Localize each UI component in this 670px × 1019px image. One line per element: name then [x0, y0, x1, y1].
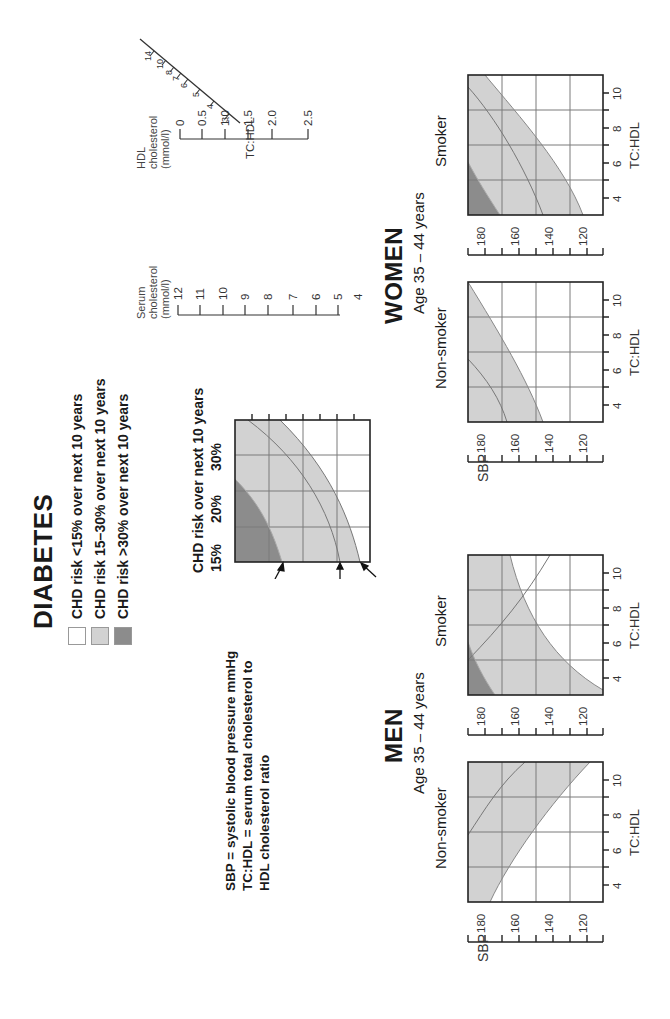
- legend-item-mid: CHD risk 15–30% over next 10 years: [91, 379, 109, 645]
- definition-tchdl: TC:HDL = serum total cholesterol to: [239, 651, 256, 891]
- ratio-label: TC:HDL: [244, 117, 256, 159]
- women-non-smoker-label: Non-smoker: [432, 307, 449, 389]
- women-smoker-label: Smoker: [432, 115, 449, 167]
- x-axis-label: TC:HDL: [627, 122, 642, 169]
- x-tick-4: 4: [611, 403, 623, 409]
- inset-example: CHD risk over next 10 years 15% 20% 30%: [190, 379, 380, 579]
- definitions-note: SBP = systolic blood pressure mmHg TC:HD…: [222, 651, 273, 891]
- hdl-tick-05: 0.5: [196, 110, 208, 126]
- x-tick-10: 10: [611, 774, 623, 787]
- ratio-tick-6: 6: [179, 83, 189, 88]
- ratio-tick-14: 14: [143, 51, 153, 61]
- x-tick-6: 6: [611, 848, 623, 854]
- inset-plot: [190, 379, 380, 579]
- y-tick-140: 140: [543, 227, 555, 246]
- x-tick-8: 8: [611, 606, 623, 612]
- chart-men-non-smoker: 180 160 140 120 SBP 4 6 8 10 TC:HDL: [455, 754, 655, 944]
- legend-label-mid: CHD risk 15–30% over next 10 years: [92, 379, 108, 619]
- men-age-label: Age 35 – 44 years: [410, 672, 427, 794]
- hdl-title: HDL cholesterol (mmol/l): [135, 116, 171, 169]
- y-tick-140: 140: [543, 914, 555, 933]
- risk-chart-page: DIABETES CHD risk <15% over next 10 year…: [0, 0, 670, 1019]
- y-axis-label: SBP: [475, 454, 491, 482]
- inset-arrows: [275, 563, 376, 579]
- serum-tick-8: 8: [262, 294, 274, 300]
- x-axis-label: TC:HDL: [627, 809, 642, 856]
- y-tick-180: 180: [475, 914, 487, 933]
- men-title: MEN: [380, 708, 408, 763]
- y-tick-140: 140: [543, 434, 555, 453]
- y-tick-180: 180: [475, 227, 487, 246]
- definition-sbp: SBP = systolic blood pressure mmHg: [222, 651, 239, 891]
- y-tick-120: 120: [577, 914, 589, 933]
- serum-tick-4: 4: [352, 294, 364, 300]
- x-tick-6: 6: [611, 641, 623, 647]
- x-tick-6: 6: [611, 368, 623, 374]
- ratio-tick-8: 8: [164, 70, 174, 75]
- x-tick-10: 10: [611, 87, 623, 100]
- x-tick-8: 8: [611, 813, 623, 819]
- chart-women-non-smoker: 180 160 140 120 SBP 4 6 8 10 TC:HDL: [455, 274, 655, 464]
- y-tick-120: 120: [577, 227, 589, 246]
- serum-tick-7: 7: [287, 294, 299, 300]
- ratio-tick-10: 10: [155, 59, 165, 69]
- x-tick-8: 8: [611, 333, 623, 339]
- serum-tick-11: 11: [194, 288, 206, 300]
- y-tick-120: 120: [577, 707, 589, 726]
- legend-item-low: CHD risk <15% over next 10 years: [68, 394, 86, 645]
- legend-label-low: CHD risk <15% over next 10 years: [69, 394, 85, 619]
- ratio-tick-7: 7: [171, 76, 181, 81]
- x-tick-10: 10: [611, 294, 623, 307]
- legend: CHD risk <15% over next 10 years CHD ris…: [68, 325, 140, 645]
- x-tick-4: 4: [611, 196, 623, 202]
- x-tick-8: 8: [611, 126, 623, 132]
- y-tick-160: 160: [509, 434, 521, 453]
- men-smoker-label: Smoker: [432, 595, 449, 647]
- serum-tick-10: 10: [217, 287, 229, 300]
- x-axis-label: TC:HDL: [627, 602, 642, 649]
- x-tick-4: 4: [611, 676, 623, 682]
- ratio-tick-5: 5: [191, 92, 201, 97]
- serum-tick-5: 5: [332, 294, 344, 300]
- x-tick-6: 6: [611, 161, 623, 167]
- hdl-tick-0: 0: [174, 120, 186, 126]
- definition-tchdl-cont: HDL cholesterol ratio: [256, 651, 273, 891]
- serum-tick-9: 9: [239, 294, 251, 300]
- y-tick-140: 140: [543, 707, 555, 726]
- ratio-tick-3: 3: [220, 117, 230, 122]
- chart-women-smoker: 180 160 140 120 4 6 8 10 TC:HDL: [455, 67, 655, 257]
- serum-tick-6: 6: [310, 294, 322, 300]
- y-tick-160: 160: [509, 227, 521, 246]
- y-tick-160: 160: [509, 914, 521, 933]
- legend-label-high: CHD risk >30% over next 10 years: [115, 394, 131, 619]
- page-title: DIABETES: [28, 494, 59, 629]
- women-title: WOMEN: [380, 227, 408, 324]
- y-tick-180: 180: [475, 707, 487, 726]
- x-tick-4: 4: [611, 883, 623, 889]
- legend-swatch-high: [114, 627, 132, 645]
- women-age-label: Age 35 – 44 years: [410, 192, 427, 314]
- y-tick-120: 120: [577, 434, 589, 453]
- legend-item-high: CHD risk >30% over next 10 years: [114, 394, 132, 645]
- y-tick-180: 180: [475, 434, 487, 453]
- hdl-tick-25: 2.5: [302, 110, 314, 126]
- nomogram: Serum cholesterol (mmol/l): [130, 29, 360, 319]
- x-axis-label: TC:HDL: [627, 329, 642, 376]
- serum-tick-12: 12: [172, 287, 184, 300]
- y-axis-label: SBP: [475, 934, 491, 962]
- ratio-tick-4: 4: [205, 104, 215, 109]
- y-tick-160: 160: [509, 707, 521, 726]
- men-non-smoker-label: Non-smoker: [432, 787, 449, 869]
- x-tick-10: 10: [611, 567, 623, 580]
- hdl-tick-20: 2.0: [266, 110, 278, 126]
- chart-men-smoker: 180 160 140 120 4 6 8 10 TC:HDL: [455, 547, 655, 737]
- legend-swatch-mid: [91, 627, 109, 645]
- legend-swatch-low: [68, 627, 86, 645]
